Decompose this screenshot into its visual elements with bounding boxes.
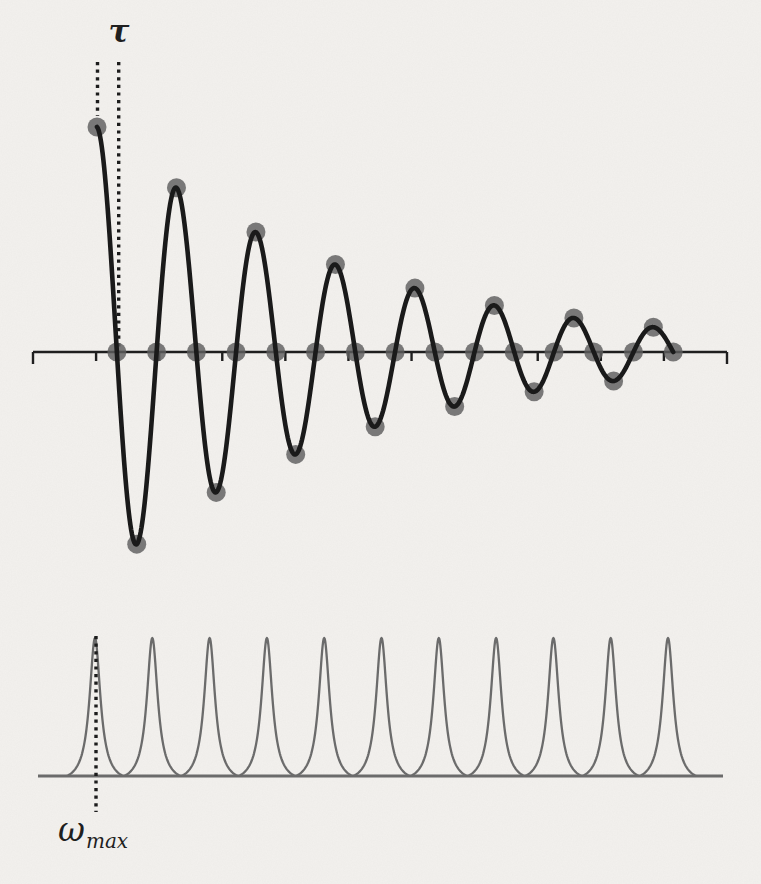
scanned-figure-page: τ ωmax — [0, 0, 761, 884]
tau-label: τ — [95, 16, 143, 47]
tau-symbol: τ — [109, 13, 130, 49]
omega-subscript: max — [86, 829, 128, 853]
omega-symbol: ω — [58, 810, 85, 849]
omega-max-label: ωmax — [58, 813, 128, 846]
paper-grain-texture — [0, 0, 761, 884]
figure-canvas — [0, 0, 761, 884]
